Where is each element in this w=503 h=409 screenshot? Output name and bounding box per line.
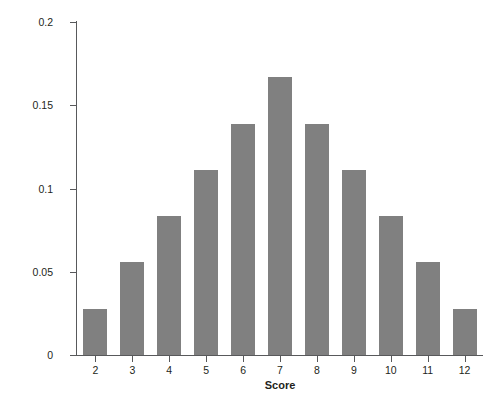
x-tick-mark <box>391 356 392 362</box>
x-tick-mark <box>206 356 207 362</box>
y-tick-label: 0.2 <box>0 16 62 28</box>
y-tick-mark <box>70 105 76 106</box>
y-axis-title: Probability <box>30 0 60 409</box>
x-tick-label: 8 <box>300 364 334 376</box>
x-tick-mark <box>132 356 133 362</box>
x-tick-label: 4 <box>152 364 186 376</box>
y-tick-mark <box>70 22 76 23</box>
x-tick-label: 6 <box>226 364 260 376</box>
bar <box>379 216 403 355</box>
x-tick-label: 2 <box>78 364 112 376</box>
y-tick-label: 0.05 <box>0 266 62 278</box>
bar <box>83 309 107 355</box>
x-tick-mark <box>354 356 355 362</box>
x-tick-mark <box>428 356 429 362</box>
x-tick-label: 12 <box>448 364 482 376</box>
y-tick-mark <box>70 272 76 273</box>
x-tick-label: 10 <box>374 364 408 376</box>
x-tick-mark <box>243 356 244 362</box>
x-tick-label: 5 <box>189 364 223 376</box>
x-tick-label: 9 <box>337 364 371 376</box>
x-axis-title: Score <box>77 379 483 391</box>
bar <box>194 170 218 355</box>
bar <box>342 170 366 355</box>
x-tick-label: 11 <box>411 364 445 376</box>
bar <box>416 262 440 355</box>
plot-area <box>77 22 483 355</box>
y-tick-mark <box>70 189 76 190</box>
probability-bar-chart: Probability 00.050.10.150.2 234567891011… <box>0 0 503 409</box>
y-tick-mark <box>70 355 76 356</box>
bar <box>157 216 181 355</box>
bar <box>305 124 329 355</box>
x-tick-label: 3 <box>115 364 149 376</box>
y-tick-label: 0.15 <box>0 99 62 111</box>
x-tick-label: 7 <box>263 364 297 376</box>
x-tick-mark <box>95 356 96 362</box>
bar <box>453 309 477 355</box>
x-tick-mark <box>317 356 318 362</box>
bar <box>231 124 255 355</box>
bar <box>120 262 144 355</box>
x-tick-mark <box>280 356 281 362</box>
x-tick-mark <box>465 356 466 362</box>
y-tick-label: 0 <box>0 349 62 361</box>
bar <box>268 77 292 355</box>
x-tick-mark <box>169 356 170 362</box>
y-tick-label: 0.1 <box>0 183 62 195</box>
